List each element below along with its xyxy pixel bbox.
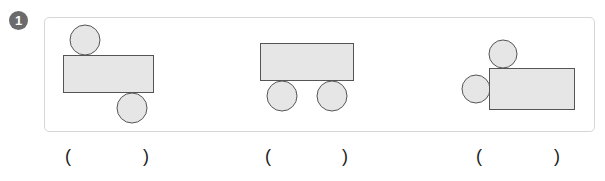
answer-close-paren-3: ) <box>554 146 560 166</box>
answer-open-paren-2: ( <box>265 146 271 166</box>
circle-shape <box>489 40 517 68</box>
figure-3 <box>462 40 575 110</box>
rectangle-shape <box>261 44 354 81</box>
answer-open-paren-3: ( <box>476 146 482 166</box>
circle-shape <box>70 25 100 55</box>
rectangle-shape <box>490 69 575 110</box>
figure-2 <box>261 44 354 112</box>
circle-shape <box>462 75 490 103</box>
net-figures <box>0 0 605 181</box>
circle-shape <box>267 81 297 111</box>
rectangle-shape <box>64 56 154 93</box>
answer-close-paren-1: ) <box>143 146 149 166</box>
answer-open-paren-1: ( <box>65 146 71 166</box>
figure-1 <box>64 25 154 123</box>
answer-close-paren-2: ) <box>342 146 348 166</box>
circle-shape <box>317 81 347 111</box>
circle-shape <box>117 93 147 123</box>
